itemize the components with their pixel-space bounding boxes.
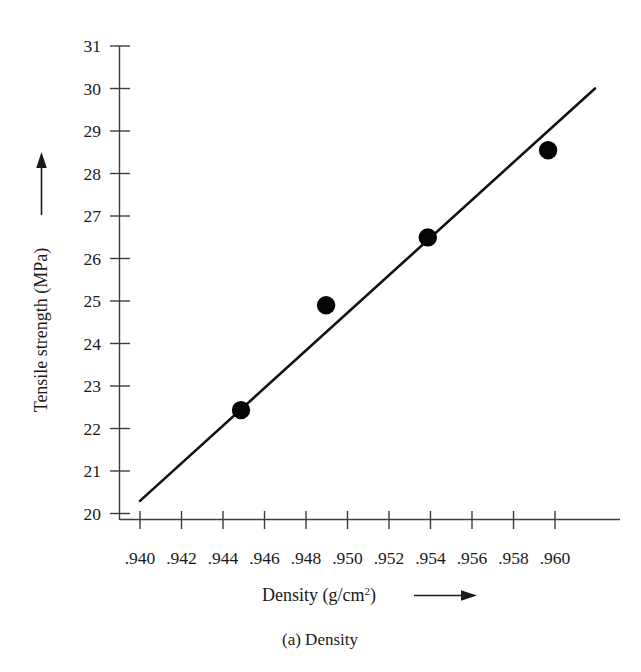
data-point[interactable] xyxy=(419,228,437,246)
y-tick-label-24: 24 xyxy=(84,334,102,354)
y-tick-label-21: 21 xyxy=(84,461,102,481)
x-tick-label-960: .960 xyxy=(540,548,571,568)
data-point[interactable] xyxy=(317,296,335,314)
x-axis-tick-labels: .940 .942 .944 .946 .948 .950 .952 .954 … xyxy=(125,548,571,568)
x-axis-label-tail: ) xyxy=(370,585,376,606)
y-tick-label-28: 28 xyxy=(84,164,102,184)
figure-container: 31 30 29 28 27 26 25 24 23 22 21 20 xyxy=(0,0,641,672)
x-tick-label-954: .954 xyxy=(415,548,446,568)
data-point[interactable] xyxy=(539,141,557,159)
y-tick-label-26: 26 xyxy=(84,249,102,269)
x-tick-label-956: .956 xyxy=(457,548,488,568)
x-axis-label-base: Density (g/cm xyxy=(262,585,364,606)
y-axis-label: Tensile strength (MPa) xyxy=(31,248,52,413)
x-tick-label-946: .946 xyxy=(249,548,280,568)
x-tick-label-940: .940 xyxy=(125,548,156,568)
figure-caption: (a) Density xyxy=(282,630,359,649)
y-tick-label-20: 20 xyxy=(84,504,102,524)
scatter-chart: 31 30 29 28 27 26 25 24 23 22 21 20 xyxy=(0,0,641,672)
y-tick-label-31: 31 xyxy=(84,36,102,56)
x-tick-label-950: .950 xyxy=(332,548,363,568)
y-tick-label-30: 30 xyxy=(84,79,102,99)
y-tick-label-22: 22 xyxy=(84,419,102,439)
y-tick-label-29: 29 xyxy=(84,121,102,141)
y-tick-label-25: 25 xyxy=(84,291,102,311)
x-tick-label-948: .948 xyxy=(291,548,322,568)
y-tick-label-23: 23 xyxy=(84,376,102,396)
x-tick-label-952: .952 xyxy=(374,548,405,568)
x-axis-label: Density (g/cm2) xyxy=(262,585,376,606)
x-tick-label-958: .958 xyxy=(498,548,529,568)
y-tick-label-27: 27 xyxy=(84,206,102,226)
x-tick-label-944: .944 xyxy=(208,548,239,568)
data-point[interactable] xyxy=(232,401,250,419)
x-tick-label-942: .942 xyxy=(166,548,197,568)
